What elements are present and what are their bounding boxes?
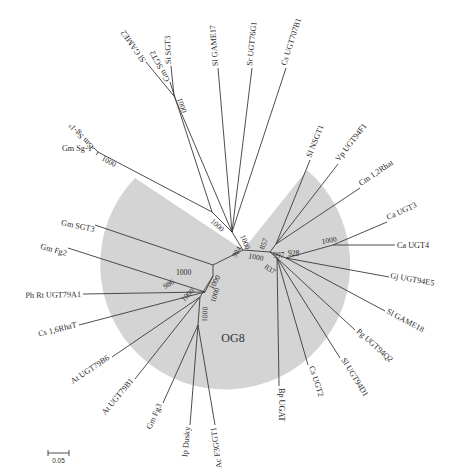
leaf-st-sgt3: St SGT3 <box>163 36 173 65</box>
leaf-ca-ugt4: Ca UGT4 <box>397 241 429 250</box>
bootstrap-value: 997 <box>273 251 285 260</box>
leaf-gm-fg2: Gm Fg2 <box>39 242 68 258</box>
leaf-gm-sg1a: Gm Sg-1ᵃ <box>62 144 95 153</box>
leaf-cs-ugt2: Cs UGT2 <box>307 365 325 398</box>
leaf-sl-game18: Sl GAME18 <box>385 307 426 334</box>
leaf-ac-f3ggt1: Ac F3GGT1 <box>209 427 224 469</box>
leaf-gj-ugt94e5: Gj UGT94E5 <box>390 271 435 288</box>
scale-bar: 0.05 <box>48 450 69 464</box>
bootstrap-value: 1000 <box>100 154 118 169</box>
leaf-sl-game17: Sl GAME17 <box>208 25 220 67</box>
leaf-at-ugt79b1: At UGT79B1 <box>100 377 136 417</box>
leaf-vp-ugt94f1: Vp UGT94F1 <box>333 122 368 164</box>
leaf-bp-ugat: Bp UGAT <box>277 388 286 421</box>
scale-bar-label: 0.05 <box>52 457 65 464</box>
leaf-gm-fg3: Gm Fg3 <box>145 402 164 430</box>
leaf-ip-dusky: Ip Dusky <box>180 425 192 457</box>
og8-clade-shading <box>100 170 350 390</box>
leaf-at-ugt79b6: At UGT79B6 <box>69 353 111 386</box>
og8-clade-label: OG8 <box>221 331 244 345</box>
leaf-sl-ugt94d1: Sl UGT94D1 <box>339 356 370 398</box>
bootstrap-value: 928 <box>288 249 300 258</box>
leaf-cm-12rhat: Cm 1,2Rhat <box>357 158 395 188</box>
leaf-pg-ugt94q2: Pg UGT94Q2 <box>355 327 395 364</box>
leaf-sl-nsgt1: Sl NSGT1 <box>305 124 326 159</box>
bootstrap-value: 1000 <box>200 306 210 322</box>
leaf-sr-ugt76g1: Sr UGT76G1 <box>245 21 259 66</box>
leaf-sl-game2: Sl GAME2 <box>119 28 148 64</box>
leaf-cs-ugt707b1: Cs UGT707B1 <box>279 17 303 67</box>
leaf-cs-16rhat: Cs 1,6RhaT <box>37 320 77 338</box>
bootstrap-value: 1000 <box>176 268 191 277</box>
leaf-gm-sgt3: Gm SGT3 <box>60 218 95 234</box>
leaf-ca-ugt3: Ca UGT3 <box>385 201 418 222</box>
phylogenetic-tree: Sl GAME2 St SGT3 Sl GAME17 Sr UGT76G1 Cs… <box>0 0 450 473</box>
leaf-ph-rt-ugt79a1: Ph Rt UGT79A1 <box>25 290 81 300</box>
